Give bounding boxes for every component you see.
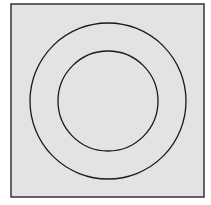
concentric-circles-diagram [0,0,211,205]
square-panel [11,4,204,197]
